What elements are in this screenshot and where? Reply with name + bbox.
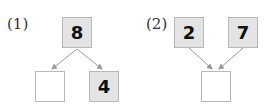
problem-2-top-left-box: 2: [174, 17, 204, 48]
arrow-2-left: [189, 48, 212, 69]
problem-2-answer-box[interactable]: [201, 71, 231, 102]
problem-1-label: (1): [7, 17, 28, 32]
problem-1-answer-box[interactable]: [35, 71, 65, 102]
arrow-1-right: [77, 49, 102, 69]
arrow-1-left: [52, 49, 77, 69]
arrow-2-right: [219, 48, 243, 69]
problem-2-label: (2): [146, 17, 167, 32]
problem-1-bottom-right-box: 4: [89, 71, 119, 102]
problem-2-top-right-box: 7: [228, 17, 258, 48]
problem-1-top-box: 8: [62, 17, 92, 48]
